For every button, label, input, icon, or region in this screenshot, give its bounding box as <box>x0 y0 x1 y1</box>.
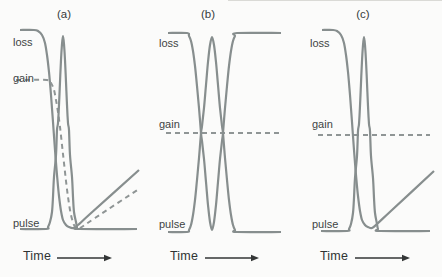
mode-locking-dynamics-figure: (a) loss gain pulse Time (b) loss gain p… <box>0 0 442 277</box>
curve-label-pulse-a: pulse <box>13 217 39 230</box>
curve-label-loss-a: loss <box>13 36 33 49</box>
panel-c-title: (c) <box>348 8 378 21</box>
time-arrow-head-b <box>251 255 259 261</box>
curve-gain-a <box>16 80 139 229</box>
curve-loss-c <box>322 30 434 228</box>
curve-label-gain-c: gain <box>312 118 333 131</box>
figure-canvas <box>0 0 442 277</box>
panel-a-title: (a) <box>49 8 79 21</box>
curve-label-pulse-c: pulse <box>312 218 338 231</box>
curve-label-loss-c: loss <box>310 37 330 50</box>
curve-pulse-a <box>20 36 137 229</box>
curve-loss-b <box>168 33 281 230</box>
curve-label-gain-b: gain <box>159 118 180 131</box>
time-arrow-head-a <box>104 255 112 261</box>
time-arrow-head-c <box>402 255 410 261</box>
curve-pulse-b <box>168 37 281 232</box>
curve-label-loss-b: loss <box>159 37 179 50</box>
curve-label-pulse-b: pulse <box>159 218 185 231</box>
curve-loss-a <box>20 30 139 228</box>
x-axis-label-c: Time <box>320 250 348 263</box>
curve-label-gain-a: gain <box>13 72 34 85</box>
x-axis-label-b: Time <box>170 250 198 263</box>
x-axis-label-a: Time <box>23 250 51 263</box>
panel-b-title: (b) <box>193 8 223 21</box>
